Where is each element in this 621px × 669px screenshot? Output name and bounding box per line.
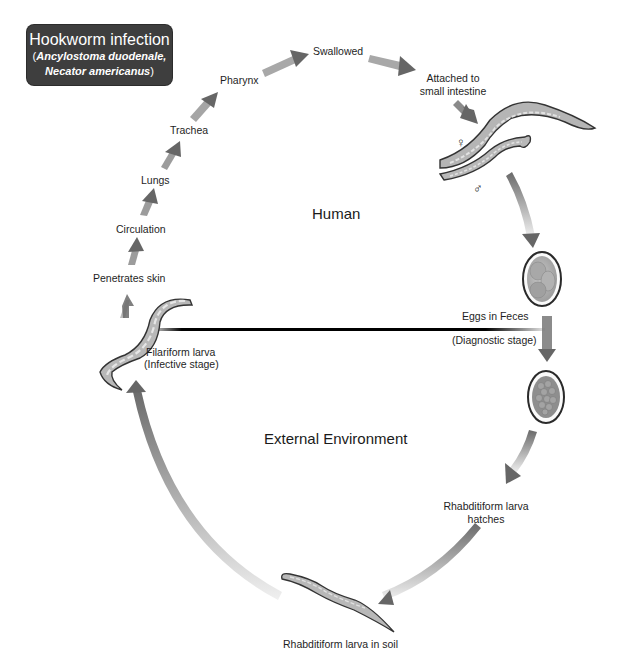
label-filariform-line2: (Infective stage) [144, 358, 219, 371]
arrow-into-intestine [453, 100, 478, 124]
label-rhabditiform-hatch-line1: Rhabditiform larva [443, 500, 528, 513]
arrow-circulation-to-circulation [128, 237, 144, 265]
arrow-egg-to-hatch [505, 430, 537, 484]
label-trachea: Trachea [170, 124, 208, 137]
label-eggs-line2: (Diagnostic stage) [452, 334, 537, 347]
arrow-soil-to-filariform [126, 380, 282, 600]
rhabditiform-larva-worm [282, 574, 394, 632]
label-pharynx: Pharynx [220, 74, 259, 87]
label-circulation: Circulation [116, 223, 166, 236]
hookworm-lifecycle-diagram: Hookworm infection (Ancylostoma duodenal… [0, 0, 621, 669]
title-species-line2: Necator americanus) [27, 64, 172, 79]
arrow-worms-to-egg [506, 172, 540, 248]
filariform-larva-worm [100, 299, 192, 390]
arrow-egg-to-embryonated-egg [538, 316, 556, 362]
title-species-line1: (Ancylostoma duodenale, [27, 49, 172, 64]
label-lungs: Lungs [141, 174, 170, 187]
egg-unembryonated [523, 252, 561, 306]
label-attached-line1: Attached to [426, 72, 479, 85]
label-rhabditiform-soil: Rhabditiform larva in soil [283, 638, 398, 651]
label-rhabditiform-hatch-line2: hatches [468, 513, 505, 526]
label-penetrates-skin: Penetrates skin [93, 272, 165, 285]
label-swallowed: Swallowed [313, 45, 363, 58]
egg-embryonated [528, 371, 564, 423]
arrow-penetrates-to-circulation [120, 294, 134, 318]
human-environment-divider [150, 328, 545, 331]
label-attached-line2: small intestine [420, 85, 487, 98]
arrow-circulation-to-lungs [140, 188, 158, 216]
title-main: Hookworm infection [27, 30, 172, 49]
region-label-external-environment: External Environment [264, 430, 407, 447]
female-symbol-icon: ♀ [456, 135, 466, 150]
region-label-human: Human [312, 205, 360, 222]
arrow-lungs-to-trachea [161, 141, 181, 170]
label-eggs-line1: Eggs in Feces [462, 310, 529, 323]
arrow-hatch-to-soil-larva [378, 523, 481, 605]
male-symbol-icon: ♂ [473, 181, 483, 196]
arrow-pharynx-to-swallowed [262, 50, 309, 77]
arrow-swallowed-to-attached [368, 55, 416, 76]
arrow-trachea-to-pharynx [190, 92, 218, 122]
title-box: Hookworm infection (Ancylostoma duodenal… [27, 25, 172, 85]
